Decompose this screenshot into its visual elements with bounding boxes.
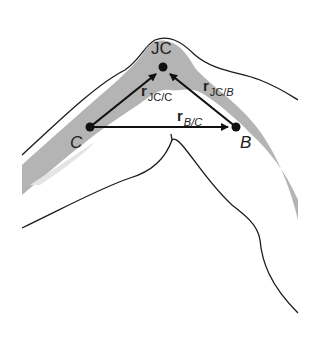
- vector-symbol: r: [141, 82, 147, 99]
- vector-label-r-jc-c: rJC/C: [141, 83, 172, 98]
- vector-symbol: r: [177, 107, 183, 124]
- point-label-b: B: [240, 134, 251, 151]
- point-jc: [159, 63, 168, 72]
- vector-label-r-jc-b: rJC/B: [203, 78, 234, 93]
- vector-subscript-ref: B/C: [184, 116, 202, 128]
- joint-crease: [171, 134, 298, 313]
- vector-subscript-ref: B: [226, 86, 233, 98]
- vector-subscript: JC/: [210, 86, 227, 98]
- vector-label-r-b-c: rB/C: [177, 108, 202, 123]
- vector-symbol: r: [203, 77, 209, 94]
- point-c: [86, 123, 95, 132]
- vector-subscript-ref: C: [164, 91, 172, 103]
- point-label-c: C: [70, 134, 82, 151]
- point-label-jc: JC: [151, 40, 172, 57]
- vector-subscript: JC/: [148, 91, 165, 103]
- point-b: [232, 123, 241, 132]
